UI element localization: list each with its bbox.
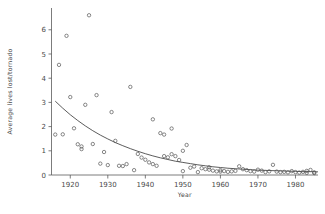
data-point (237, 165, 240, 168)
data-point (189, 166, 192, 169)
y-tick-label: 5 (42, 51, 46, 59)
x-tick-label: 1940 (136, 181, 154, 189)
plot-canvas: 0123456 1920193019401950196019701980 Yea… (0, 0, 325, 214)
data-point (174, 154, 177, 157)
y-axis: 0123456 (42, 8, 52, 180)
data-point (230, 170, 233, 173)
data-point (57, 63, 60, 66)
data-point (69, 95, 72, 98)
fit-curve (55, 101, 318, 172)
data-point (294, 170, 297, 173)
data-point (170, 127, 173, 130)
data-point (181, 149, 184, 152)
data-point (196, 170, 199, 173)
data-point (159, 131, 162, 134)
y-tick-label: 4 (42, 75, 47, 83)
data-point (99, 162, 102, 165)
data-point (185, 143, 188, 146)
y-axis-title: Average lives lost/tornado (6, 48, 14, 134)
data-point (151, 162, 154, 165)
scatter-plot-figure: 0123456 1920193019401950196019701980 Yea… (0, 0, 325, 214)
data-point (136, 152, 139, 155)
x-tick-label: 1930 (99, 181, 117, 189)
data-point (102, 150, 105, 153)
data-point (234, 169, 237, 172)
x-axis: 1920193019401950196019701980 (52, 175, 319, 189)
data-point (125, 162, 128, 165)
data-point (162, 133, 165, 136)
data-point (207, 168, 210, 171)
x-tick-label: 1920 (61, 181, 79, 189)
data-point (200, 167, 203, 170)
data-point (95, 93, 98, 96)
data-point (309, 168, 312, 171)
data-points (54, 14, 316, 175)
data-point (72, 127, 75, 130)
data-point (192, 165, 195, 168)
data-point (140, 156, 143, 159)
data-point (84, 103, 87, 106)
data-point (252, 170, 255, 173)
data-point (155, 164, 158, 167)
data-point (245, 168, 248, 171)
data-point (226, 170, 229, 173)
data-point (151, 118, 154, 121)
data-point (54, 133, 57, 136)
data-point (91, 142, 94, 145)
data-point (61, 133, 64, 136)
x-tick-label: 1950 (174, 181, 192, 189)
data-point (162, 154, 165, 157)
x-axis-title: Year (177, 191, 192, 198)
data-point (170, 152, 173, 155)
data-point (211, 169, 214, 172)
y-tick-label: 1 (42, 147, 46, 155)
x-tick-label: 1980 (287, 181, 305, 189)
data-point (121, 164, 124, 167)
data-point (264, 170, 267, 173)
data-point (222, 169, 225, 172)
data-point (181, 169, 184, 172)
y-tick-label: 2 (42, 123, 46, 131)
data-point (166, 156, 169, 159)
data-point (132, 168, 135, 171)
x-tick-label: 1960 (211, 181, 229, 189)
y-tick-label: 3 (42, 99, 46, 107)
data-point (106, 163, 109, 166)
data-point (215, 170, 218, 173)
data-point (204, 167, 207, 170)
data-point (177, 158, 180, 161)
data-point (114, 139, 117, 142)
data-point (147, 161, 150, 164)
y-tick-label: 0 (42, 172, 46, 180)
data-point (117, 164, 120, 167)
data-point (65, 34, 68, 37)
data-point (144, 158, 147, 161)
data-point (129, 85, 132, 88)
x-tick-label: 1970 (249, 181, 267, 189)
y-tick-label: 6 (42, 26, 47, 34)
data-point (76, 143, 79, 146)
data-point (271, 163, 274, 166)
data-point (110, 110, 113, 113)
data-point (87, 14, 90, 17)
